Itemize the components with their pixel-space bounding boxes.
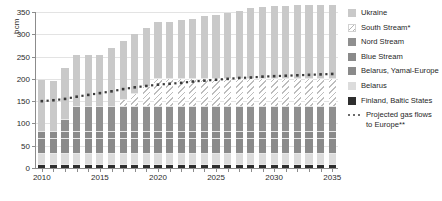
x-tick-mark <box>170 168 171 172</box>
projected-line-dot <box>325 73 327 75</box>
x-tick-label: 2030 <box>265 173 283 182</box>
x-tick-mark <box>309 168 310 172</box>
x-tick-mark <box>274 168 275 172</box>
projected-line-dot <box>209 79 211 81</box>
projected-line-dot <box>174 82 176 84</box>
y-tick-label: 300 <box>17 30 30 39</box>
x-tick-mark <box>297 168 298 172</box>
legend-item-yamal[interactable]: Belarus, Yamal-Europe <box>348 66 442 75</box>
projected-line-dot <box>116 89 118 91</box>
projected-line-dot <box>331 73 334 76</box>
legend-item-nord[interactable]: Nord Stream <box>348 37 442 46</box>
legend-item-ukraine[interactable]: Ukraine <box>348 8 442 17</box>
projected-line-dot <box>261 75 264 78</box>
x-tick-mark <box>42 168 43 172</box>
plot-area: 050100150200250300350 201020152020202520… <box>36 12 338 168</box>
legend-swatch-icon <box>348 24 356 32</box>
projected-line-dot <box>70 97 72 99</box>
x-tick-mark <box>135 168 136 172</box>
legend-item-label: Blue Stream <box>361 52 403 61</box>
projected-line-dot <box>110 90 113 93</box>
legend-item-label: Nord Stream <box>361 37 404 46</box>
projected-line-dot <box>302 74 304 76</box>
y-tick-label: 350 <box>17 8 30 17</box>
projected-line-dot <box>238 77 241 80</box>
projected-line-dot <box>314 74 316 76</box>
projected-line-dot <box>273 75 276 78</box>
x-tick-label: 2035 <box>323 173 341 182</box>
projected-line-dot <box>296 74 299 77</box>
projected-line-dot <box>105 91 107 93</box>
projected-line-dot <box>308 74 311 77</box>
legend-item-label: Finland, Baltic States <box>361 96 432 105</box>
projected-line-dot <box>157 83 160 86</box>
x-tick-mark <box>239 168 240 172</box>
legend-item-belarus[interactable]: Belarus <box>348 81 442 90</box>
projected-line-dot <box>81 95 83 97</box>
projected-line-dot <box>203 79 206 82</box>
legend-item-label: Ukraine <box>361 8 387 17</box>
legend-item-label: Projected gas flows to Europe** <box>366 110 440 129</box>
x-tick-mark <box>181 168 182 172</box>
projected-line-dot <box>122 88 125 91</box>
x-axis-line <box>35 168 338 169</box>
legend-swatch-icon <box>348 82 356 90</box>
legend-item-label: Belarus, Yamal-Europe <box>361 66 439 75</box>
projected-line-dot <box>168 82 171 85</box>
legend-swatch-icon <box>348 9 356 17</box>
y-tick-mark <box>32 168 36 169</box>
legend-swatch-icon <box>348 67 356 75</box>
y-tick-label: 100 <box>17 119 30 128</box>
x-tick-mark <box>251 168 252 172</box>
projected-line-dot <box>290 74 292 76</box>
x-tick-mark <box>158 168 159 172</box>
projected-line-dot <box>139 86 141 88</box>
projected-line-dot <box>133 86 136 89</box>
projected-line-dot <box>41 100 44 103</box>
projected-line-dot <box>279 75 281 77</box>
x-tick-mark <box>77 168 78 172</box>
y-tick-label: 50 <box>21 141 30 150</box>
projected-line-dot <box>215 78 218 81</box>
projected-line-dot <box>250 76 253 79</box>
y-tick-label: 200 <box>17 74 30 83</box>
projected-line-dot <box>221 78 223 80</box>
x-tick-mark <box>65 168 66 172</box>
projected-line-dot <box>99 92 102 95</box>
legend-item-blue[interactable]: Blue Stream <box>348 52 442 61</box>
x-tick-mark <box>193 168 194 172</box>
legend-item-label: South Stream* <box>361 23 410 32</box>
projected-line-dot <box>192 80 195 83</box>
x-tick-label: 2015 <box>91 173 109 182</box>
projected-line-dot <box>52 99 55 102</box>
x-tick-mark <box>216 168 217 172</box>
x-tick-mark <box>100 168 101 172</box>
x-tick-mark <box>123 168 124 172</box>
x-tick-label: 2020 <box>149 173 167 182</box>
projected-line-dot <box>226 78 229 81</box>
projected-line-dot <box>47 100 49 102</box>
projected-line-dot <box>319 73 322 76</box>
legend-item-projected[interactable]: Projected gas flows to Europe** <box>348 110 442 129</box>
legend-item-finland[interactable]: Finland, Baltic States <box>348 96 442 105</box>
y-tick-label: 0 <box>26 164 30 173</box>
legend-swatch-icon <box>348 38 356 46</box>
x-tick-mark <box>146 168 147 172</box>
x-tick-mark <box>88 168 89 172</box>
legend-swatch-icon <box>348 97 356 105</box>
y-tick-label: 250 <box>17 52 30 61</box>
projected-line-dot <box>284 74 287 77</box>
projected-line <box>36 12 338 168</box>
projected-line-dot <box>267 75 269 77</box>
x-tick-mark <box>228 168 229 172</box>
dotted-line-icon <box>348 111 364 119</box>
projected-line-dot <box>64 98 67 101</box>
projected-line-dot <box>198 80 200 82</box>
x-tick-label: 2025 <box>207 173 225 182</box>
legend-item-south[interactable]: South Stream* <box>348 23 442 32</box>
projected-line-dot <box>75 95 78 98</box>
x-tick-mark <box>112 168 113 172</box>
x-tick-mark <box>332 168 333 172</box>
projected-line-dot <box>163 83 165 85</box>
y-tick-label: 150 <box>17 97 30 106</box>
